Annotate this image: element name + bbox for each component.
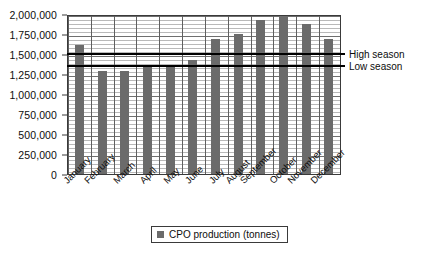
y-tick-label: 0 (51, 169, 57, 181)
bar-slot (181, 16, 204, 174)
legend-label: CPO production (tonnes) (169, 229, 280, 240)
y-tick-label: 250,000 (18, 149, 57, 161)
bar-slot (68, 16, 91, 174)
x-axis-slot: July (204, 176, 227, 232)
bar-slot (204, 16, 227, 174)
y-tick-label: 2,000,000 (9, 9, 57, 21)
y-tick-label: 500,000 (18, 129, 57, 141)
bar-june[interactable] (188, 60, 197, 174)
chart-container: 2,000,0001,750,0001,500,0001,250,0001,00… (0, 0, 439, 259)
bar-slot (136, 16, 159, 174)
high-season-label: High season (349, 48, 405, 59)
low-season-line (67, 65, 345, 67)
x-axis-slot: December (318, 176, 341, 232)
bar-slot (91, 16, 114, 174)
bar-may[interactable] (166, 65, 175, 174)
x-axis-slot: February (90, 176, 113, 232)
y-tick-label: 1,000,000 (9, 89, 57, 101)
bar-march[interactable] (120, 71, 129, 174)
y-tick-label: 750,000 (18, 109, 57, 121)
x-axis-slot: May (158, 176, 181, 232)
legend-swatch-icon (157, 231, 164, 238)
bar-august[interactable] (234, 34, 243, 174)
bar-slot (159, 16, 182, 174)
y-tick-label: 1,750,000 (9, 29, 57, 41)
x-axis-slot: March (113, 176, 136, 232)
x-axis-slot: January (67, 176, 90, 232)
y-axis: 2,000,0001,750,0001,500,0001,250,0001,00… (0, 15, 63, 175)
bar-slot (227, 16, 250, 174)
x-axis-slot: June (181, 176, 204, 232)
y-tick-label: 1,500,000 (9, 49, 57, 61)
x-axis-slot: September (250, 176, 273, 232)
bar-october[interactable] (279, 15, 288, 174)
x-axis-slot: April (136, 176, 159, 232)
high-season-line (67, 53, 345, 55)
bar-july[interactable] (211, 39, 220, 174)
chart-legend: CPO production (tonnes) (151, 226, 288, 243)
low-season-label: Low season (349, 61, 402, 72)
bar-november[interactable] (302, 24, 311, 174)
bar-slot (113, 16, 136, 174)
x-axis: JanuaryFebruaryMarchAprilMayJuneJulyAugu… (67, 176, 341, 232)
y-tick-label: 1,250,000 (9, 69, 57, 81)
bar-april[interactable] (143, 66, 152, 174)
